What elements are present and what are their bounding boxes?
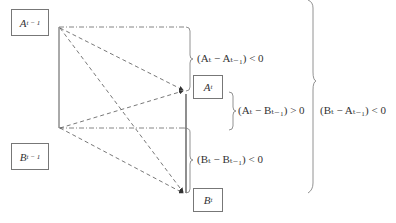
condition-b-change: (Bₜ − Bₜ₋₁) < 0 <box>197 153 263 166</box>
node-b-prev: Bt − 1 <box>11 143 49 170</box>
condition-a-minus-bprev: (Aₜ − Bₜ₋₁) > 0 <box>238 104 305 117</box>
node-b-prev-sub: t − 1 <box>27 153 41 161</box>
node-b-curr-sub: t <box>210 196 212 204</box>
node-a-prev-base: A <box>20 17 27 29</box>
node-b-curr: Bt <box>193 188 223 212</box>
node-a-curr: At <box>193 75 223 99</box>
node-a-curr-sub: t <box>210 83 212 91</box>
condition-a-change: (Aₜ − Aₜ₋₁) < 0 <box>197 52 264 65</box>
node-b-prev-base: B <box>20 151 27 163</box>
node-a-prev: At − 1 <box>11 9 49 36</box>
condition-b-minus-aprev: (Bₜ − Aₜ₋₁) < 0 <box>320 104 386 117</box>
node-a-prev-sub: t − 1 <box>27 19 41 27</box>
node-a-curr-base: A <box>204 81 211 93</box>
node-b-curr-base: B <box>204 194 211 206</box>
